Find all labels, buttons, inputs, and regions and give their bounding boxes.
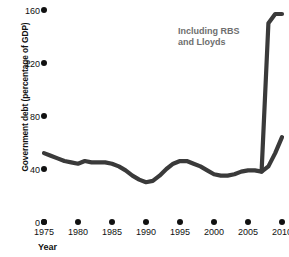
data-line-government-debt [44, 137, 282, 182]
chart-container: Government debt (percentage of GDP) 160 … [0, 0, 289, 257]
plot-area [0, 0, 289, 257]
